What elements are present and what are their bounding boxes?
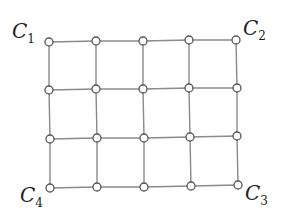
horizontal-edge bbox=[50, 138, 97, 139]
horizontal-edge bbox=[191, 185, 238, 186]
vertical-edge bbox=[237, 136, 238, 185]
grid-node bbox=[187, 182, 195, 190]
label-letter: C bbox=[245, 181, 260, 205]
vertical-edge bbox=[190, 137, 191, 186]
grid-node bbox=[233, 84, 241, 92]
vertical-edge bbox=[236, 40, 237, 88]
grid-node bbox=[186, 133, 194, 141]
grid-diagram: C1 C2 C3 C4 bbox=[0, 0, 282, 211]
grid-node bbox=[46, 184, 54, 192]
label-letter: C bbox=[20, 183, 35, 207]
grid-node bbox=[139, 85, 147, 93]
grid-node bbox=[139, 37, 147, 45]
label-subscript: 4 bbox=[35, 196, 43, 210]
label-subscript: 3 bbox=[260, 194, 268, 208]
horizontal-edge bbox=[143, 40, 189, 41]
label-letter: C bbox=[12, 19, 27, 43]
horizontal-edge bbox=[190, 136, 237, 137]
horizontal-edge bbox=[49, 41, 96, 42]
horizontal-edge bbox=[143, 88, 189, 89]
vertical-edge bbox=[143, 89, 144, 138]
vertical-edge bbox=[49, 90, 50, 139]
grid-node bbox=[233, 132, 241, 140]
horizontal-edge bbox=[144, 186, 191, 187]
grid-node bbox=[45, 38, 53, 46]
label-letter: C bbox=[243, 16, 258, 40]
label-subscript: 1 bbox=[27, 32, 35, 46]
vertical-edge bbox=[189, 88, 190, 137]
grid-node bbox=[140, 134, 148, 142]
grid-node bbox=[232, 36, 240, 44]
grid-node bbox=[93, 134, 101, 142]
vertical-edge bbox=[96, 89, 97, 138]
corner-label-c1: C1 bbox=[12, 19, 35, 46]
grid-node bbox=[45, 86, 53, 94]
grid-node bbox=[140, 183, 148, 191]
grid-edges bbox=[49, 40, 238, 188]
grid-node bbox=[46, 135, 54, 143]
label-subscript: 2 bbox=[258, 29, 266, 43]
grid-node bbox=[234, 181, 242, 189]
grid-node bbox=[92, 85, 100, 93]
grid-node bbox=[185, 36, 193, 44]
horizontal-edge bbox=[144, 137, 190, 138]
grid-node bbox=[93, 183, 101, 191]
horizontal-edge bbox=[50, 187, 97, 188]
grid-node bbox=[185, 84, 193, 92]
grid-node bbox=[92, 37, 100, 45]
corner-label-c4: C4 bbox=[20, 183, 43, 210]
corner-label-c3: C3 bbox=[245, 181, 268, 208]
corner-label-c2: C2 bbox=[243, 16, 266, 43]
horizontal-edge bbox=[49, 89, 96, 90]
